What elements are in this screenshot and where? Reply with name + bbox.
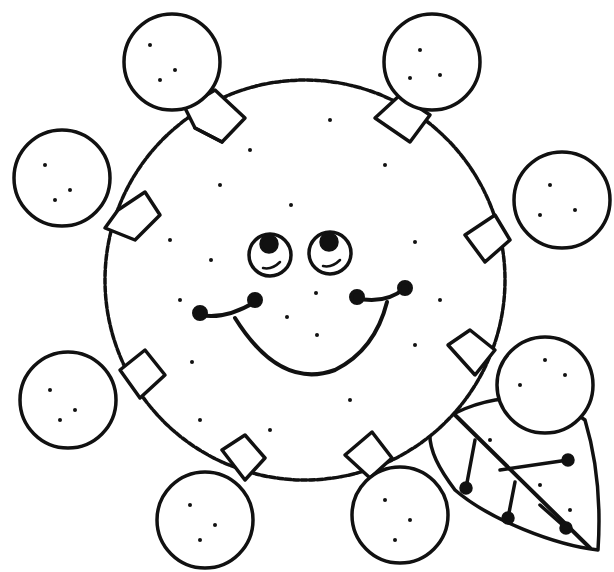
bulb-bottom-left (157, 472, 253, 568)
bulb-top-right (384, 14, 480, 110)
bulb-right-lower (497, 337, 593, 433)
bulb-left-lower (20, 352, 116, 448)
coloring-page-drawing (0, 0, 614, 572)
bulb-right-upper (514, 152, 610, 248)
bulb-bottom-right (352, 467, 448, 563)
bulb-left-upper (14, 130, 110, 226)
eye-left (249, 234, 291, 276)
face-body (105, 80, 505, 480)
eye-right (309, 232, 351, 274)
bulb-top-left (124, 14, 220, 110)
